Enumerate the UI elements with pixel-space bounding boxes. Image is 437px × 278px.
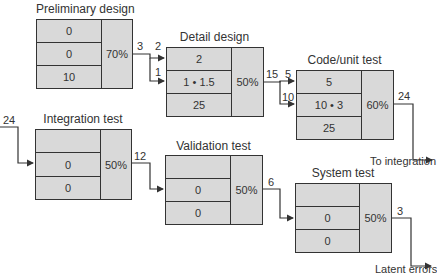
newly-generated-errors: 0	[296, 230, 359, 252]
detection-efficiency: 70%	[101, 20, 132, 88]
newly-generated-errors: 10	[37, 66, 101, 88]
detection-efficiency: 50%	[359, 184, 391, 252]
flow-label-code-out: 24	[398, 90, 410, 102]
errors-passed-through: 2	[167, 48, 231, 71]
detection-efficiency: 50%	[231, 48, 263, 116]
flow-label-code-in-passed: 5	[285, 68, 291, 80]
flow-label-detail-in-passed: 2	[155, 40, 161, 52]
errors-amplified: 0	[296, 207, 359, 230]
stage-box-code-unit-test: 5 10 • 3 25 60%	[296, 70, 394, 140]
destination-to-integration: To integration	[370, 155, 436, 167]
stage-title-integration-test: Integration test	[35, 112, 131, 126]
errors-passed-through: 0	[37, 20, 101, 43]
flow-label-detail-in-amplified: 1	[155, 66, 161, 78]
flow-label-system-out: 3	[397, 205, 403, 217]
stage-title-preliminary-design: Preliminary design	[36, 2, 132, 16]
flow-label-detail-out: 15	[266, 68, 278, 80]
stage-title-validation-test: Validation test	[165, 139, 262, 153]
stage-box-system-test: 0 0 50%	[295, 183, 392, 253]
errors-amplified: 0	[36, 153, 100, 177]
errors-amplified: 0	[37, 43, 101, 66]
newly-generated-errors: 0	[36, 177, 100, 199]
newly-generated-errors: 25	[167, 94, 231, 116]
stage-box-detail-design: 2 1 • 1.5 25 50%	[166, 47, 264, 117]
flow-label-integration-in: 24	[3, 114, 15, 126]
errors-passed-through	[166, 156, 230, 179]
destination-latent-errors: Latent errors	[375, 263, 437, 275]
stage-box-validation-test: 0 0 50%	[165, 155, 263, 225]
detection-efficiency: 60%	[361, 71, 393, 139]
flow-label-preliminary-out: 3	[137, 40, 143, 52]
newly-generated-errors: 0	[166, 202, 230, 224]
stage-box-preliminary-design: 0 0 10 70%	[36, 19, 133, 89]
errors-passed-through: 5	[297, 71, 361, 94]
flow-label-validation-out: 6	[268, 176, 274, 188]
stage-title-code-unit-test: Code/unit test	[296, 53, 393, 67]
errors-passed-through	[36, 130, 100, 153]
errors-amplified: 0	[166, 179, 230, 202]
errors-amplified: 1 • 1.5	[167, 71, 231, 94]
newly-generated-errors: 25	[297, 117, 361, 139]
stage-title-system-test: System test	[295, 166, 391, 180]
errors-passed-through	[296, 184, 359, 207]
detection-efficiency: 50%	[100, 130, 131, 199]
detection-efficiency: 50%	[230, 156, 262, 224]
errors-amplified: 10 • 3	[297, 94, 361, 117]
stage-box-integration-test: 0 0 50%	[35, 129, 132, 200]
flow-label-integration-out: 12	[134, 150, 146, 162]
stage-title-detail-design: Detail design	[166, 30, 263, 44]
flow-label-code-in-amplified: 10	[282, 91, 294, 103]
